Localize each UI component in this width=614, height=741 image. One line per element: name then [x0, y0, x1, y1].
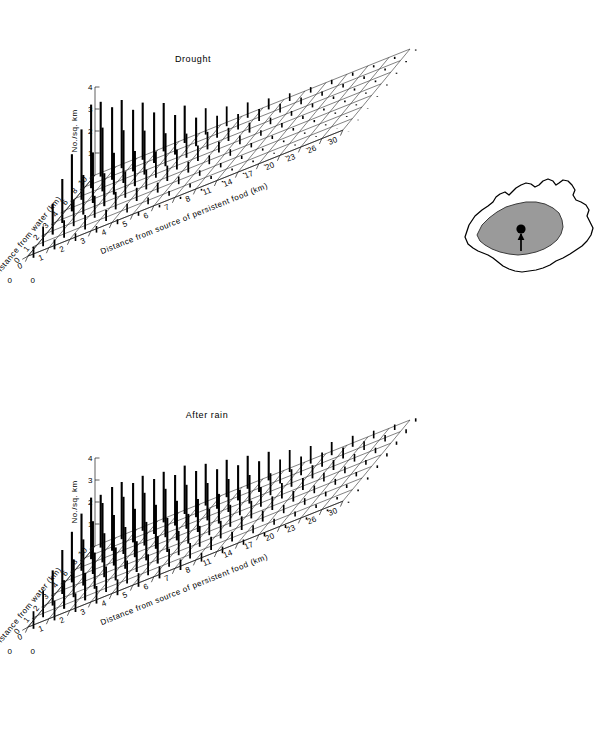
svg-text:After rain: After rain — [186, 410, 229, 420]
svg-text:8: 8 — [184, 194, 192, 204]
svg-text:8: 8 — [184, 565, 192, 575]
svg-text:2: 2 — [58, 615, 66, 625]
svg-text:5: 5 — [121, 590, 129, 600]
svg-text:1: 1 — [37, 624, 45, 634]
svg-text:7: 7 — [163, 573, 171, 583]
svg-text:4: 4 — [100, 227, 108, 237]
svg-text:2: 2 — [88, 498, 93, 507]
australia-map-inset — [455, 175, 605, 295]
svg-text:30: 30 — [327, 135, 339, 147]
svg-text:14: 14 — [222, 548, 234, 560]
svg-text:23: 23 — [285, 152, 297, 164]
svg-text:1: 1 — [88, 520, 93, 529]
svg-text:4: 4 — [100, 598, 108, 608]
svg-text:26: 26 — [306, 143, 318, 155]
svg-text:6: 6 — [142, 582, 150, 592]
svg-text:11: 11 — [201, 556, 213, 568]
svg-text:0: 0 — [31, 647, 36, 656]
svg-text:5: 5 — [121, 219, 129, 229]
svg-text:11: 11 — [201, 185, 213, 197]
svg-text:0: 0 — [31, 276, 36, 285]
svg-text:No./sq. km: No./sq. km — [70, 109, 79, 152]
svg-text:30: 30 — [327, 506, 339, 518]
svg-text:1: 1 — [88, 149, 93, 158]
svg-text:No./sq. km: No./sq. km — [70, 480, 79, 523]
svg-text:0: 0 — [8, 647, 13, 656]
plot-after-rain: 1234No./sq. km108643210Distance from wat… — [0, 371, 614, 741]
svg-text:0: 0 — [16, 632, 24, 642]
svg-text:6: 6 — [142, 211, 150, 221]
svg-text:3: 3 — [79, 236, 87, 246]
svg-text:20: 20 — [264, 531, 276, 543]
svg-text:26: 26 — [306, 514, 318, 526]
svg-text:4: 4 — [88, 83, 93, 92]
svg-text:17: 17 — [243, 169, 255, 181]
svg-text:2: 2 — [88, 127, 93, 136]
svg-text:7: 7 — [163, 202, 171, 212]
svg-text:20: 20 — [264, 160, 276, 172]
svg-text:3: 3 — [79, 607, 87, 617]
svg-text:2: 2 — [58, 244, 66, 254]
svg-text:3: 3 — [88, 105, 93, 114]
svg-text:1: 1 — [37, 253, 45, 263]
svg-text:10: 10 — [76, 545, 89, 558]
svg-text:17: 17 — [243, 540, 255, 552]
svg-text:0: 0 — [8, 276, 13, 285]
svg-text:Drought: Drought — [175, 54, 211, 64]
svg-text:0: 0 — [16, 261, 24, 271]
svg-text:14: 14 — [222, 177, 234, 189]
panel-after-rain: 1234No./sq. km108643210Distance from wat… — [0, 371, 614, 741]
svg-text:10: 10 — [76, 174, 89, 187]
svg-text:Distance from water (km): Distance from water (km) — [0, 194, 63, 278]
svg-text:3: 3 — [88, 476, 93, 485]
svg-text:4: 4 — [88, 454, 93, 463]
svg-text:23: 23 — [285, 523, 297, 535]
